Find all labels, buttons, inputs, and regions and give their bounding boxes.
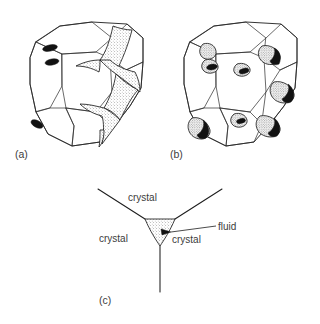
label-crystal-top: crystal <box>128 192 157 203</box>
panel-c-label: (c) <box>99 294 111 306</box>
figure-container: (a) (b <box>0 0 320 324</box>
panel-a-label: (a) <box>15 148 28 160</box>
figure-svg: (a) (b <box>0 0 320 324</box>
panel-b-label: (b) <box>170 148 183 160</box>
label-crystal-right: crystal <box>172 234 201 245</box>
label-crystal-left: crystal <box>99 233 128 244</box>
label-fluid: fluid <box>218 221 236 232</box>
fluid-pocket-top-left-1 <box>200 43 216 59</box>
